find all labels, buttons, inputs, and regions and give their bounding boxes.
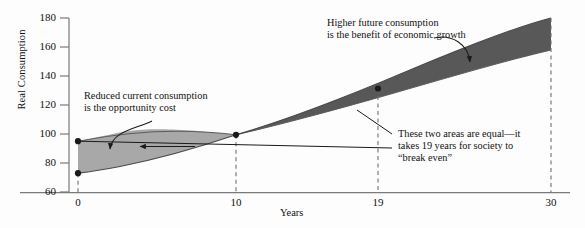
benefit-note-line1: Higher future consumption <box>327 17 466 29</box>
y-tick-100: 100 <box>22 127 56 139</box>
y-tick-60: 60 <box>22 185 56 197</box>
opportunity-cost-note: Reduced current consumption is the oppor… <box>84 90 208 114</box>
y-tick-120: 120 <box>22 98 56 110</box>
break-even-note-line3: “break even” <box>398 152 520 164</box>
marker-year19 <box>375 85 381 91</box>
opportunity-cost-note-line2: is the opportunity cost <box>84 102 208 114</box>
break-even-note-line1: These two areas are equal—it <box>398 128 520 140</box>
x-axis-label: Years <box>280 207 303 218</box>
y-tick-140: 140 <box>22 69 56 81</box>
marker-year0-lower <box>75 170 81 176</box>
x-tick-0: 0 <box>64 196 92 208</box>
chart-figure: Real Consumption 180 160 140 120 100 80 … <box>0 0 585 228</box>
marker-year10 <box>233 132 239 138</box>
y-tick-160: 160 <box>22 40 56 52</box>
x-tick-19: 19 <box>364 196 392 208</box>
x-tick-30: 30 <box>537 196 565 208</box>
y-axis-ticks <box>60 18 69 192</box>
opportunity-cost-note-line1: Reduced current consumption <box>84 90 208 102</box>
break-even-leader-upper <box>357 110 392 134</box>
benefit-note-line2: is the benefit of economic growth <box>327 29 466 41</box>
y-tick-80: 80 <box>22 156 56 168</box>
x-tick-10: 10 <box>222 196 250 208</box>
benefit-note: Higher future consumption is the benefit… <box>327 17 466 41</box>
opportunity-cost-area <box>78 129 236 173</box>
y-tick-180: 180 <box>22 11 56 23</box>
break-even-note-line2: takes 19 years for society to <box>398 140 520 152</box>
break-even-note: These two areas are equal—it takes 19 ye… <box>398 128 520 165</box>
